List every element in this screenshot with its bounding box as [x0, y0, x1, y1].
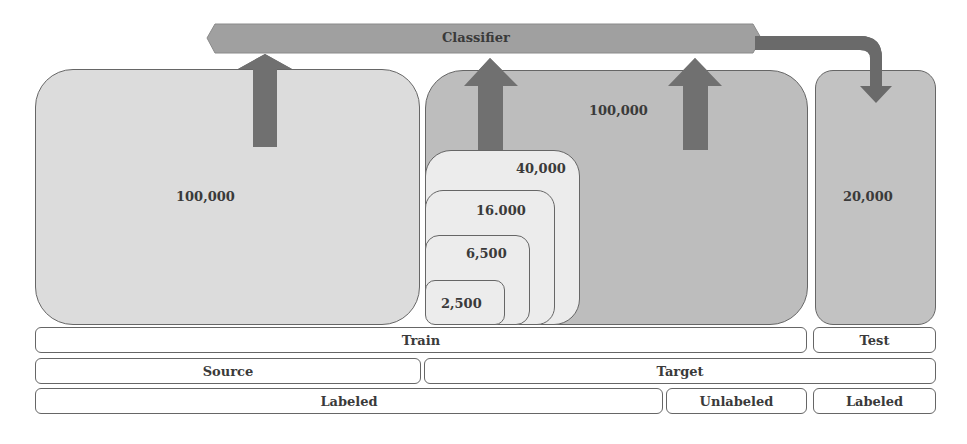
classifier-label: Classifier	[442, 30, 510, 45]
subset-count-16000: 16.000	[476, 203, 526, 218]
test-count: 20,000	[843, 189, 893, 204]
test-panel: 20,000	[815, 70, 936, 325]
row-target: Target	[424, 358, 936, 384]
row-source: Source	[35, 358, 421, 384]
source-train-count: 100,000	[176, 189, 235, 204]
row-labeled: Labeled	[35, 388, 663, 414]
row-train: Train	[35, 327, 807, 353]
row-test: Test	[813, 327, 936, 353]
target-unlabeled-count: 100,000	[589, 103, 648, 118]
subset-panel-2500: 2,500	[425, 280, 505, 325]
row-unlabeled: Unlabeled	[666, 388, 807, 414]
source-train-panel: 100,000	[35, 69, 420, 325]
subset-count-2500: 2,500	[441, 296, 482, 311]
row-test-labeled: Labeled	[813, 388, 936, 414]
subset-count-6500: 6,500	[466, 246, 507, 261]
subset-count-40000: 40,000	[516, 161, 566, 176]
